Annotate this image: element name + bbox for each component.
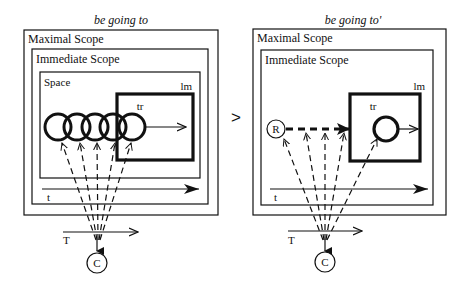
- panel-be-going-to-prime: be going to' Maximal Scope Immediate Sco…: [253, 13, 446, 272]
- panel-title: be going to': [325, 13, 382, 27]
- trajector-label: tr: [370, 100, 377, 112]
- immediate-scope-label: Immediate Scope: [265, 53, 349, 67]
- time-axis-T-label: T: [288, 234, 295, 246]
- panel-title: be going to: [94, 13, 148, 27]
- trajector-circle: [119, 114, 145, 140]
- space-label: Space: [44, 76, 70, 88]
- maximal-scope-label: Maximal Scope: [28, 32, 104, 46]
- immediate-scope-label: Immediate Scope: [36, 52, 120, 66]
- maximal-scope-label: Maximal Scope: [257, 31, 333, 45]
- construal-lines: [284, 133, 377, 240]
- construal-lines: [62, 143, 131, 240]
- diagram-canvas: be going to Maximal Scope Immediate Scop…: [0, 0, 466, 288]
- trajector-label: tr: [137, 100, 144, 112]
- trajector-path-circles: [45, 114, 145, 140]
- time-axis-t-label: t: [274, 191, 277, 203]
- conceptualizer-label: C: [93, 257, 100, 269]
- conceptualizer-label: C: [321, 256, 328, 268]
- reference-point-label: R: [272, 123, 280, 135]
- landmark-box: [350, 94, 420, 161]
- trajector-circle: [374, 117, 398, 141]
- transition-symbol: >: [231, 108, 241, 127]
- landmark-label: lm: [413, 80, 425, 92]
- time-axis-t-label: t: [47, 191, 50, 203]
- landmark-label: lm: [180, 80, 192, 92]
- panel-be-going-to: be going to Maximal Scope Immediate Scop…: [24, 13, 218, 273]
- time-axis-T-label: T: [63, 234, 70, 246]
